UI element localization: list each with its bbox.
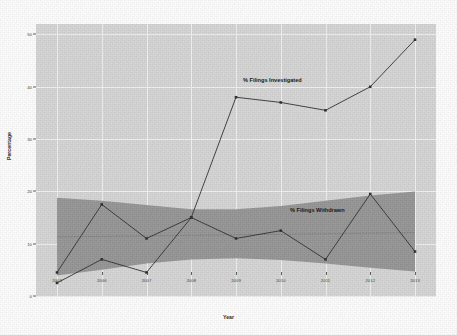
data-point-marker [100, 258, 103, 261]
data-point-marker [190, 216, 193, 219]
x-axis-title: Year [0, 314, 457, 320]
y-tick-label: 10 [2, 241, 32, 246]
data-point-marker [369, 85, 372, 88]
y-tick-label: 20 [2, 189, 32, 194]
data-point-marker [145, 237, 148, 240]
data-point-marker [279, 101, 282, 104]
data-point-marker [324, 258, 327, 261]
y-tick-label: 30 [2, 137, 32, 142]
data-point-marker [279, 229, 282, 232]
data-point-marker [324, 109, 327, 112]
annotation-filings-withdrawn: % Filings Withdrawn [290, 207, 345, 213]
y-tick-label: 40 [2, 84, 32, 89]
data-point-marker [414, 250, 417, 253]
plot-panel [36, 24, 436, 296]
y-tick-label: 50 [2, 32, 32, 37]
data-point-marker [56, 271, 59, 274]
chart-figure: Percentage 01020304050 20032006200720082… [0, 0, 457, 335]
gridline-horizontal [36, 296, 436, 297]
data-point-marker [414, 38, 417, 41]
confidence-band [57, 191, 415, 275]
annotation-filings-investigated: % Filings Investigated [243, 77, 302, 83]
data-point-marker [145, 271, 148, 274]
y-tick-label: 0 [2, 294, 32, 299]
plot-area [36, 24, 436, 296]
data-point-marker [56, 282, 59, 285]
data-point-marker [100, 203, 103, 206]
data-point-marker [235, 237, 238, 240]
data-point-marker [235, 96, 238, 99]
data-point-marker [369, 193, 372, 196]
